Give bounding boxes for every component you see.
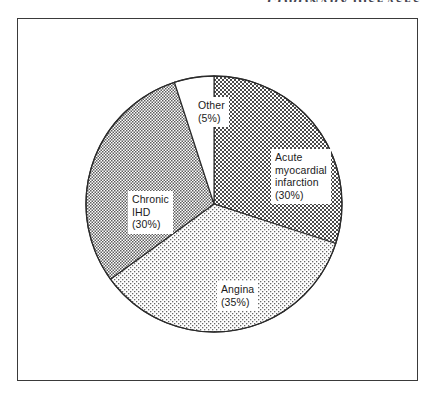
figure-frame: Acute myocardial infarction (30%) Angina…	[17, 18, 418, 381]
slice-label-angina: Angina (35%)	[217, 281, 258, 311]
slice-label-chronic-ihd: Chronic IHD (30%)	[128, 191, 173, 234]
slice-label-other: Other (5%)	[194, 97, 229, 127]
figure-page: CORONARY DISEASES	[0, 0, 435, 410]
pie-chart	[18, 19, 419, 382]
slice-label-acute-myocardial-infarction: Acute myocardial infarction (30%)	[271, 149, 331, 204]
running-header: CORONARY DISEASES	[267, 0, 421, 2]
